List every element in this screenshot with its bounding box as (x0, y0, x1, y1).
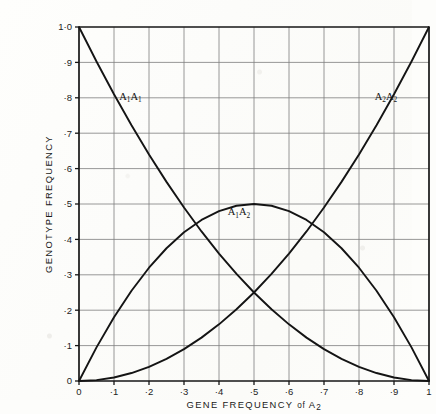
y-tick-label: ·1 (64, 340, 72, 351)
x-tick-label: ·9 (390, 386, 398, 397)
x-axis-title-main: GENE FREQUENCY (187, 399, 294, 410)
x-tick-label: 0 (76, 386, 81, 397)
x-tick-label: ·5 (250, 386, 258, 397)
x-tick-label: ·4 (215, 386, 223, 397)
y-tick-label: ·9 (64, 57, 72, 68)
x-tick-label: ·8 (355, 386, 363, 397)
y-tick-label: ·8 (64, 92, 72, 103)
x-axis-title: GENE FREQUENCY of A2 (187, 399, 322, 412)
x-tick-label: ·2 (145, 386, 153, 397)
curve-labels: A1A1A1A2A2A2 (119, 91, 397, 220)
svg-text:GENE FREQUENCY of A2: GENE FREQUENCY of A2 (187, 399, 322, 412)
x-axis-title-conn: of (297, 401, 305, 410)
x-tick-label: 1 (426, 386, 431, 397)
x-tick-label: ·1 (110, 386, 118, 397)
y-tick-label: ·5 (64, 198, 72, 209)
y-tick-label: 0 (67, 375, 72, 386)
x-axis-title-var: A (309, 399, 317, 410)
x-tick-label: ·7 (320, 386, 328, 397)
y-tick-label: ·2 (64, 305, 72, 316)
curve-label-A1A1: A1A1 (119, 91, 142, 104)
x-axis-tick-labels: 0·1·2·3·4·5·6·7·8·91 (76, 386, 431, 397)
y-axis-title-text: GENOTYPE FREQUENCY (43, 135, 54, 273)
y-tick-label: ·3 (64, 269, 72, 280)
y-tick-label: ·4 (64, 234, 72, 245)
tick-marks (75, 27, 429, 385)
x-tick-label: ·3 (180, 386, 188, 397)
page-bleed-artifact (0, 0, 412, 8)
chart-canvas: 0·1·2·3·4·5·6·7·8·91 0·1·2·3·4·5·6·7·8·9… (40, 16, 436, 414)
y-axis-title: GENOTYPE FREQUENCY (43, 135, 54, 273)
hardy-weinberg-genotype-frequency-chart: 0·1·2·3·4·5·6·7·8·91 0·1·2·3·4·5·6·7·8·9… (40, 16, 372, 384)
x-axis-title-var-sub: 2 (316, 403, 321, 412)
y-tick-label: ·7 (64, 128, 72, 139)
x-tick-label: ·6 (285, 386, 293, 397)
curve-label-A1A2: A1A2 (228, 206, 251, 219)
y-tick-label: 1·0 (58, 21, 72, 32)
y-axis-tick-labels: 0·1·2·3·4·5·6·7·8·91·0 (58, 21, 72, 386)
y-tick-label: ·6 (64, 163, 72, 174)
